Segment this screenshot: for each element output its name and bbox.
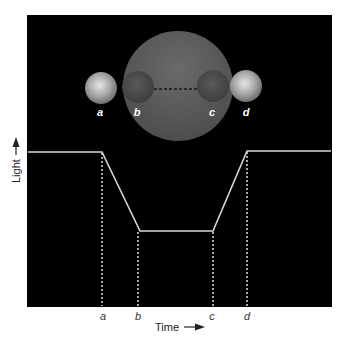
x-tick-b: b — [135, 310, 141, 322]
sphere-label-b: b — [134, 106, 141, 118]
light-curve-diagram: a b c d a b c d Time Light — [0, 0, 342, 342]
x-tick-d: d — [244, 310, 251, 322]
sphere-label-c: c — [209, 106, 215, 118]
x-tick-c: c — [209, 310, 215, 322]
y-axis-title: Light — [10, 159, 22, 183]
x-axis-arrow-icon — [184, 324, 205, 331]
sphere-b-icon — [122, 71, 154, 103]
sphere-label-a: a — [97, 106, 103, 118]
x-tick-a: a — [100, 310, 106, 322]
sphere-d-icon — [230, 70, 262, 102]
sphere-a-icon — [85, 72, 117, 104]
x-axis-title: Time — [155, 321, 179, 333]
sphere-label-d: d — [243, 106, 250, 118]
y-axis-arrow-icon — [13, 137, 20, 155]
sphere-c-icon — [197, 70, 229, 102]
